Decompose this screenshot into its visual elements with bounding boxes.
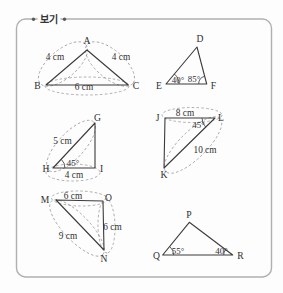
triangle-abc: A B C 4 cm 4 cm 6 cm bbox=[31, 34, 142, 95]
vertex-j-label: J bbox=[156, 112, 160, 123]
vertex-e-label: E bbox=[156, 80, 162, 91]
side-jl-measure: 8 cm bbox=[176, 108, 195, 118]
angle-h-measure: 45° bbox=[67, 158, 80, 168]
example-figure: 보기 A B C 4 cm 4 cm 6 cm D E F 40° 85° G … bbox=[0, 0, 283, 293]
side-kl-measure: 10 cm bbox=[194, 145, 218, 155]
angle-l-measure: 45° bbox=[192, 120, 205, 130]
side-bc-measure: 6 cm bbox=[75, 82, 94, 92]
triangle-mno-outline bbox=[56, 200, 104, 250]
title-left-bullet-icon bbox=[32, 18, 35, 21]
vertex-c-label: C bbox=[133, 80, 139, 91]
side-mn-measure: 9 cm bbox=[59, 231, 78, 241]
vertex-n-label: N bbox=[101, 253, 108, 264]
triangle-jkl-outline bbox=[164, 118, 215, 168]
vertex-f-label: F bbox=[211, 80, 216, 91]
side-on-measure: 6 cm bbox=[103, 222, 122, 232]
vertex-b-label: B bbox=[34, 80, 40, 91]
triangle-mno: M O N 6 cm 9 cm 6 cm bbox=[41, 190, 123, 264]
vertex-g-label: G bbox=[94, 112, 101, 123]
side-mo-measure: 6 cm bbox=[64, 191, 83, 201]
triangle-jkl: J L K 8 cm 45° 10 cm bbox=[156, 108, 230, 182]
vertex-a-label: A bbox=[84, 35, 91, 46]
angle-q-measure: 55° bbox=[172, 246, 185, 256]
worksheet-page: 보기 A B C 4 cm 4 cm 6 cm D E F 40° 85° G … bbox=[0, 0, 283, 293]
vertex-m-label: M bbox=[41, 194, 50, 205]
side-hg-measure: 5 cm bbox=[53, 136, 72, 146]
vertex-l-label: L bbox=[218, 112, 224, 123]
vertex-h-label: H bbox=[43, 163, 50, 174]
angle-r-measure: 40° bbox=[215, 246, 228, 256]
vertex-q-label: Q bbox=[153, 250, 160, 261]
triangle-def: D E F 40° 85° bbox=[156, 33, 216, 91]
side-ab-measure: 4 cm bbox=[46, 52, 65, 62]
side-ac-measure: 4 cm bbox=[112, 52, 131, 62]
angle-e-measure: 40° bbox=[172, 75, 185, 85]
vertex-r-label: R bbox=[237, 250, 244, 261]
angle-h-arc bbox=[61, 159, 65, 168]
vertex-p-label: P bbox=[186, 209, 191, 220]
title-right-bullet-icon bbox=[63, 18, 66, 21]
vertex-o-label: O bbox=[105, 192, 112, 203]
triangle-ghi: G H I 5 cm 45° 4 cm bbox=[39, 112, 103, 182]
vertex-i-label: I bbox=[100, 163, 103, 174]
angle-f-measure: 85° bbox=[188, 74, 201, 84]
triangle-pqr: P Q R 55° 40° bbox=[153, 209, 244, 261]
vertex-d-label: D bbox=[197, 33, 204, 44]
vertex-k-label: K bbox=[161, 169, 168, 180]
side-hi-measure: 4 cm bbox=[65, 170, 84, 180]
legend-box-title: 보기 bbox=[40, 13, 58, 25]
